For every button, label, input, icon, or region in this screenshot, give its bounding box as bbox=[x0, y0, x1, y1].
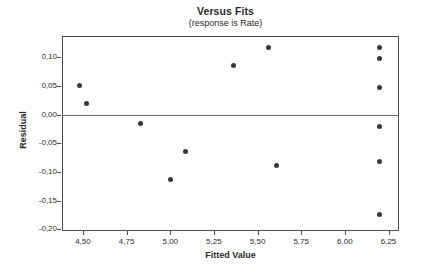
data-point bbox=[77, 83, 82, 88]
chart-title: Versus Fits bbox=[62, 5, 389, 17]
x-axis-label: Fitted Value bbox=[62, 250, 399, 260]
data-point bbox=[266, 45, 271, 50]
y-tick-label: 0,05 bbox=[0, 81, 57, 91]
y-tick-mark bbox=[57, 86, 61, 87]
data-point bbox=[231, 63, 236, 68]
y-tick-label: -0,05 bbox=[0, 138, 57, 148]
x-tick-label: 5,75 bbox=[286, 237, 316, 247]
x-tick-label: 5,00 bbox=[155, 237, 185, 247]
y-tick-mark bbox=[57, 229, 61, 230]
x-tick-mark bbox=[170, 231, 171, 235]
y-tick-label: -0,10 bbox=[0, 167, 57, 177]
x-tick-label: 6,25 bbox=[374, 237, 404, 247]
y-tick-mark bbox=[57, 57, 61, 58]
x-tick-mark bbox=[301, 231, 302, 235]
x-tick-mark bbox=[83, 231, 84, 235]
x-tick-label: 5,50 bbox=[243, 237, 273, 247]
data-point bbox=[377, 85, 382, 90]
x-tick-label: 4,75 bbox=[112, 237, 142, 247]
y-tick-mark bbox=[57, 201, 61, 202]
chart-subtitle: (response is Rate) bbox=[62, 18, 389, 28]
x-tick-mark bbox=[345, 231, 346, 235]
x-tick-mark bbox=[127, 231, 128, 235]
x-tick-label: 5,25 bbox=[199, 237, 229, 247]
y-tick-label: 0,10 bbox=[0, 52, 57, 62]
y-tick-label: -0,20 bbox=[0, 224, 57, 234]
x-tick-mark bbox=[214, 231, 215, 235]
versus-fits-residual-plot: Versus Fits (response is Rate) Residual … bbox=[0, 0, 426, 277]
x-tick-label: 6,00 bbox=[330, 237, 360, 247]
data-point bbox=[138, 121, 143, 126]
y-tick-mark bbox=[57, 115, 61, 116]
y-tick-label: -0,15 bbox=[0, 196, 57, 206]
y-tick-mark bbox=[57, 172, 61, 173]
data-point bbox=[168, 177, 173, 182]
x-tick-mark bbox=[258, 231, 259, 235]
data-point bbox=[274, 163, 279, 168]
y-tick-mark bbox=[57, 143, 61, 144]
x-tick-mark bbox=[389, 231, 390, 235]
x-tick-label: 4,50 bbox=[68, 237, 98, 247]
y-tick-label: 0,00 bbox=[0, 110, 57, 120]
zero-reference-line bbox=[63, 115, 398, 116]
